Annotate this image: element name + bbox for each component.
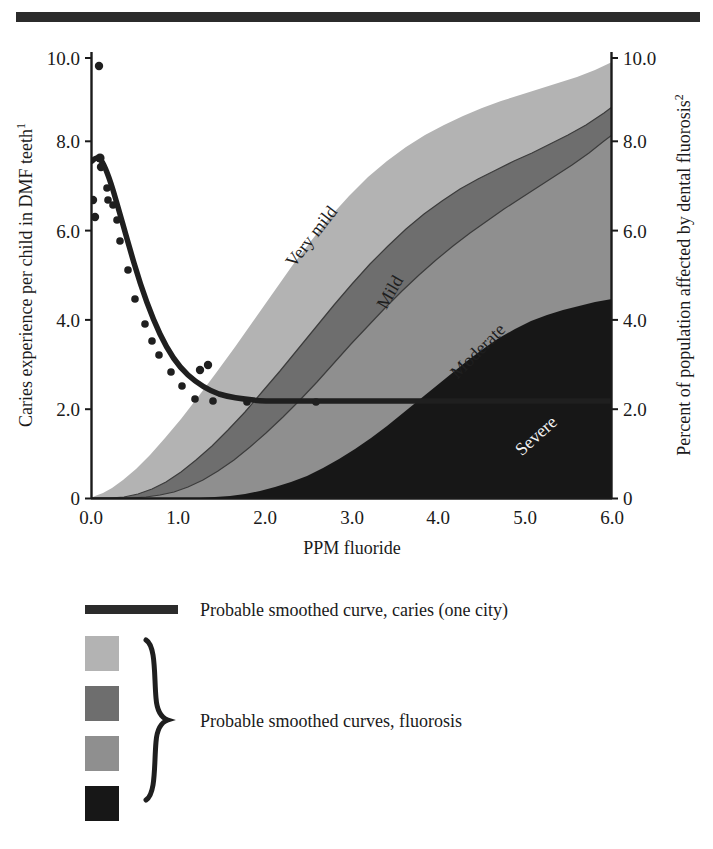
svg-text:0: 0 <box>623 488 633 509</box>
y-axis-right-ticks <box>612 58 618 499</box>
svg-text:6.0: 6.0 <box>600 507 624 528</box>
legend-line-label: Probable smoothed curve, caries (one cit… <box>200 600 508 621</box>
y-axis-right-tick-labels: 0 2.0 4.0 6.0 8.0 10.0 <box>623 48 656 509</box>
svg-text:0.0: 0.0 <box>79 507 103 528</box>
svg-text:Caries experience per child in: Caries experience per child in DMF teeth… <box>14 123 36 427</box>
svg-text:2.0: 2.0 <box>56 399 80 420</box>
svg-text:2.0: 2.0 <box>623 399 647 420</box>
svg-text:4.0: 4.0 <box>56 310 80 331</box>
svg-text:4.0: 4.0 <box>426 507 450 528</box>
y-axis-right-title-text: Percent of population affected by dental… <box>674 100 694 456</box>
moderate-swatch <box>85 736 119 771</box>
severe-swatch <box>85 786 119 821</box>
svg-text:6.0: 6.0 <box>56 221 80 242</box>
svg-text:8.0: 8.0 <box>623 131 647 152</box>
svg-text:1.0: 1.0 <box>166 507 190 528</box>
svg-text:2.0: 2.0 <box>253 507 277 528</box>
y-axis-right-title: Percent of population affected by dental… <box>672 94 694 456</box>
chart-svg: Very mild Mild Moderate Severe 0 2.0 4.0… <box>0 0 713 849</box>
svg-text:10.0: 10.0 <box>623 48 656 69</box>
y-axis-right-title-superscript: 2 <box>672 94 686 100</box>
y-axis-left-ticks <box>85 58 91 499</box>
figure-container: Very mild Mild Moderate Severe 0 2.0 4.0… <box>0 0 713 849</box>
top-rule-divider <box>16 12 700 22</box>
svg-text:8.0: 8.0 <box>56 131 80 152</box>
svg-text:Percent of population affected: Percent of population affected by dental… <box>672 94 694 456</box>
svg-text:0: 0 <box>71 488 81 509</box>
legend-line-swatch <box>85 605 178 614</box>
svg-text:4.0: 4.0 <box>623 310 647 331</box>
y-axis-left-title: Caries experience per child in DMF teeth… <box>14 123 36 427</box>
x-axis-title: PPM fluoride <box>303 538 401 558</box>
svg-text:3.0: 3.0 <box>340 507 364 528</box>
svg-text:10.0: 10.0 <box>47 48 80 69</box>
legend-bands-label: Probable smoothed curves, fluorosis <box>200 711 462 731</box>
y-axis-left-title-text: Caries experience per child in DMF teeth <box>16 129 36 427</box>
very-mild-swatch <box>85 636 119 671</box>
y-axis-left-tick-labels: 0 2.0 4.0 6.0 8.0 10.0 <box>47 48 80 509</box>
mild-swatch <box>85 686 119 721</box>
svg-text:5.0: 5.0 <box>513 507 537 528</box>
x-axis-tick-labels: 0.0 1.0 2.0 3.0 4.0 5.0 6.0 <box>79 507 624 528</box>
svg-text:6.0: 6.0 <box>623 221 647 242</box>
legend-group: Probable smoothed curve, caries (one cit… <box>85 600 508 821</box>
y-axis-left-title-superscript: 1 <box>14 123 28 129</box>
legend-brace <box>146 640 168 800</box>
